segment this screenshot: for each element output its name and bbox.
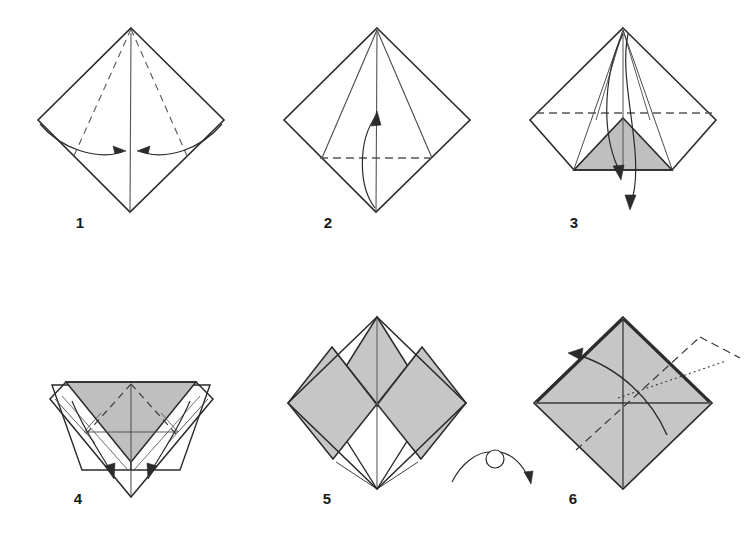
step-label-1: 1	[76, 214, 84, 231]
step-label-6: 6	[569, 490, 577, 507]
step-label-3: 3	[570, 214, 578, 231]
origami-diagram-canvas: 1 2 3	[0, 0, 754, 541]
step-label-5: 5	[323, 490, 331, 507]
origami-instruction-sheet: 1 2 3	[0, 0, 754, 541]
step-label-4: 4	[74, 490, 83, 507]
step-label-2: 2	[324, 214, 332, 231]
